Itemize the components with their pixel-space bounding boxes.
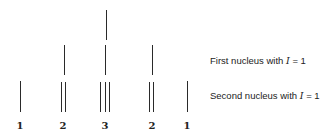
label-suffix: = 1: [290, 55, 306, 66]
second-split-line: [65, 82, 66, 112]
second-split-line: [105, 82, 106, 112]
intensity-label: 2: [149, 120, 156, 131]
first-split-line-left: [64, 45, 65, 75]
second-split-line: [109, 82, 110, 112]
first-split-line-center: [105, 45, 106, 75]
first-split-line-right: [152, 45, 153, 75]
second-nucleus-label: Second nucleus with I = 1: [210, 90, 320, 101]
label-prefix: First nucleus with: [210, 55, 286, 66]
first-nucleus-label: First nucleus with I = 1: [210, 55, 306, 66]
intensity-label: 1: [17, 120, 24, 131]
second-split-line: [153, 82, 154, 112]
second-split-line: [149, 82, 150, 112]
second-split-line: [20, 81, 21, 112]
intensity-label: 2: [60, 120, 67, 131]
second-split-line: [100, 82, 101, 112]
parent-line: [106, 10, 107, 40]
second-split-line: [187, 81, 188, 112]
label-prefix: Second nucleus with: [210, 90, 300, 101]
intensity-label: 1: [184, 120, 191, 131]
intensity-label: 3: [102, 120, 109, 131]
label-suffix: = 1: [304, 90, 320, 101]
second-split-line: [61, 82, 62, 112]
